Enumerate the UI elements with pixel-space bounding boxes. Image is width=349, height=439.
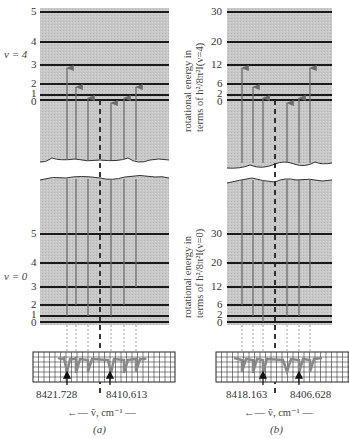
panel-caption: (a)	[93, 423, 106, 435]
upper-state-label: v = 4	[4, 48, 27, 60]
frequency-label: 8406.628	[290, 388, 331, 400]
wavenumber-axis-label: ←— ṽ, cm⁻¹ —	[244, 406, 313, 418]
level-label: 20	[211, 36, 222, 47]
lower-state-block-b	[227, 178, 332, 325]
wavenumber-axis-label: ←— ṽ, cm⁻¹ —	[67, 406, 136, 418]
frequency-label: 8418.163	[226, 388, 267, 400]
spectrum-grid-a	[33, 352, 175, 382]
lower-axis-title: rotational energy in terms of h²/8π²I(v=…	[182, 229, 206, 318]
level-label: 12	[211, 281, 222, 292]
level-label: 0	[31, 96, 37, 107]
upper-state-block-a	[40, 8, 169, 162]
level-label: 4	[31, 257, 37, 268]
level-label: 3	[31, 281, 37, 292]
upper-state-block-b	[227, 8, 332, 168]
level-label: 0	[217, 96, 223, 107]
frequency-label: 8410.613	[106, 388, 147, 400]
level-label: 30	[211, 6, 222, 17]
lower-state-block-a	[40, 176, 169, 326]
panel-caption: (b)	[270, 423, 283, 435]
level-label: 5	[31, 6, 37, 17]
spectrum-grid-b	[216, 352, 349, 382]
level-label: 4	[31, 36, 37, 47]
level-label: 3	[31, 59, 37, 70]
level-label: 0	[31, 317, 37, 328]
level-label: 20	[211, 257, 222, 268]
energy-level-diagram	[0, 0, 349, 439]
panel-b	[216, 8, 349, 395]
panel-a	[33, 8, 175, 395]
level-label: 30	[211, 228, 222, 239]
level-label: 12	[211, 59, 222, 70]
upper-axis-title: rotational energy in terms of h²/8π²I(v=…	[182, 43, 206, 132]
level-label: 0	[217, 317, 223, 328]
lower-state-label: v = 0	[4, 270, 27, 282]
frequency-label: 8421.728	[36, 388, 77, 400]
level-label: 5	[31, 228, 37, 239]
